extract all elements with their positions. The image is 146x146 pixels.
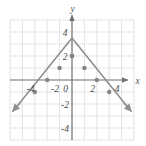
- coordinate-plane-figure: -4 -2 0 2 4 4 2 -2 -4 x y: [0, 0, 146, 146]
- data-point: [95, 78, 99, 82]
- data-point: [45, 78, 49, 82]
- x-tick-label-4: 4: [115, 84, 120, 94]
- x-tick-label-neg2: -2: [51, 84, 59, 94]
- x-tick-label-2: 2: [90, 84, 95, 94]
- y-tick-label-neg2: -2: [61, 100, 69, 110]
- data-point: [57, 66, 61, 70]
- y-tick-label-2: 2: [63, 52, 68, 62]
- x-axis-label: x: [134, 76, 140, 86]
- origin-label: 0: [63, 84, 68, 94]
- graph-screenshot: -4 -2 0 2 4 4 2 -2 -4 x y: [0, 0, 146, 146]
- cartesian-plot-svg: -4 -2 0 2 4 4 2 -2 -4 x y: [0, 0, 146, 146]
- x-tick-label-neg4: -4: [27, 84, 35, 94]
- y-tick-label-4: 4: [63, 28, 68, 38]
- y-tick-label-neg4: -4: [61, 124, 69, 134]
- data-point: [107, 90, 111, 94]
- data-point-vertex: [70, 54, 75, 59]
- data-point: [82, 66, 86, 70]
- y-axis-label: y: [69, 4, 75, 14]
